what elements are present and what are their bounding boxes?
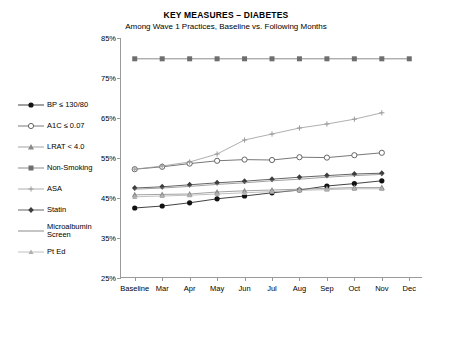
legend-item[interactable]: Pt Ed — [18, 241, 116, 262]
filled-diamond-marker-icon — [18, 204, 44, 216]
small-triangle-marker-icon — [18, 246, 44, 258]
series-4 — [132, 110, 384, 172]
series-1 — [132, 150, 384, 172]
x-axis-tick-label: Apr — [184, 284, 196, 293]
y-axis-tick-label: 75% — [101, 74, 116, 83]
data-point — [242, 157, 247, 162]
series-3 — [132, 56, 412, 61]
x-axis-tick-mark — [409, 277, 410, 281]
x-axis-tick-label: Dec — [403, 284, 416, 293]
x-axis-tick-label: May — [210, 284, 224, 293]
filled-triangle-marker-icon — [18, 141, 44, 153]
data-point — [297, 56, 302, 61]
legend-item-label: Non-Smoking — [47, 164, 92, 172]
data-point — [159, 184, 165, 190]
x-axis-tick-label: Jun — [238, 284, 250, 293]
y-axis-tick-mark — [117, 238, 121, 239]
data-point — [187, 56, 192, 61]
data-point — [379, 150, 384, 155]
series-line — [135, 173, 382, 188]
legend-item-label: ASA — [47, 185, 62, 193]
data-point — [379, 170, 385, 176]
data-point — [352, 56, 357, 61]
legend-item-label: Pt Ed — [47, 248, 65, 256]
data-point — [187, 200, 192, 205]
x-axis-tick-mark — [299, 277, 300, 281]
chart-subtitle: Among Wave 1 Practices, Baseline vs. Fol… — [0, 22, 452, 31]
line-marker-icon — [18, 225, 44, 237]
x-axis-tick-mark — [135, 277, 136, 281]
data-point — [324, 121, 329, 126]
data-point — [214, 158, 219, 163]
series-6 — [135, 174, 382, 189]
data-point — [269, 131, 274, 136]
open-circle-marker-icon — [18, 120, 44, 132]
plot-svg — [121, 38, 423, 278]
y-axis-tick-label: 25% — [101, 274, 116, 283]
data-point — [379, 110, 384, 115]
data-point — [297, 125, 302, 130]
data-point — [132, 56, 137, 61]
data-point — [215, 56, 220, 61]
y-axis-tick-mark — [117, 158, 121, 159]
diabetes-key-measures-chart: KEY MEASURES – DIABETES Among Wave 1 Pra… — [0, 0, 452, 341]
legend-item[interactable]: BP ≤ 130/80 — [18, 94, 116, 115]
filled-circle-marker-icon — [18, 99, 44, 111]
chart-title: KEY MEASURES – DIABETES — [0, 10, 452, 20]
filled-square-marker-icon — [18, 162, 44, 174]
y-axis-tick-mark — [117, 278, 121, 279]
x-axis-tick-label: Jul — [267, 284, 277, 293]
data-point — [352, 117, 357, 122]
x-axis-tick-mark — [382, 277, 383, 281]
filled-triangle-marker-icon — [18, 141, 44, 153]
y-axis-tick-mark — [117, 118, 121, 119]
data-point — [297, 155, 302, 160]
line-marker-icon — [18, 225, 44, 237]
series-line — [135, 174, 382, 189]
legend-item-label: LRAT < 4.0 — [47, 143, 84, 151]
x-axis-tick-label: Sep — [320, 284, 333, 293]
x-axis-tick-label: Oct — [349, 284, 361, 293]
y-axis-tick-label: 65% — [101, 114, 116, 123]
data-point — [324, 155, 329, 160]
legend-item-label: BP ≤ 130/80 — [47, 101, 88, 109]
legend-item-label: Microalbumin Screen — [47, 223, 93, 239]
small-triangle-marker-icon — [18, 246, 44, 258]
x-axis-tick-mark — [272, 277, 273, 281]
data-point — [214, 151, 219, 156]
x-axis-tick-mark — [217, 277, 218, 281]
data-point — [132, 205, 137, 210]
data-point — [132, 185, 138, 191]
x-axis-tick-mark — [245, 277, 246, 281]
plus-marker-icon — [18, 183, 44, 195]
y-axis-tick-label: 35% — [101, 234, 116, 243]
x-axis-tick-mark — [190, 277, 191, 281]
x-axis-tick-label: Aug — [293, 284, 306, 293]
data-point — [379, 56, 384, 61]
data-point — [270, 56, 275, 61]
filled-diamond-marker-icon — [18, 204, 44, 216]
plot-area: 25%35%45%55%65%75%85%BaselineMarAprMayJu… — [120, 38, 422, 278]
plus-marker-icon — [18, 183, 44, 195]
open-circle-marker-icon — [18, 120, 44, 132]
y-axis-tick-label: 45% — [101, 194, 116, 203]
data-point — [160, 203, 165, 208]
x-axis-tick-label: Nov — [375, 284, 388, 293]
filled-square-marker-icon — [18, 162, 44, 174]
data-point — [214, 196, 219, 201]
legend-item-label: Statin — [47, 206, 66, 214]
x-axis-tick-label: Mar — [156, 284, 169, 293]
data-point — [352, 153, 357, 158]
filled-circle-marker-icon — [18, 99, 44, 111]
data-point — [160, 56, 165, 61]
legend-item-label: A1C ≤ 0.07 — [47, 122, 84, 130]
x-axis-tick-label: Baseline — [120, 284, 149, 293]
x-axis-tick-mark — [354, 277, 355, 281]
data-point — [324, 56, 329, 61]
y-axis-tick-mark — [117, 38, 121, 39]
y-axis-tick-label: 55% — [101, 154, 116, 163]
data-point — [242, 137, 247, 142]
y-axis-tick-mark — [117, 78, 121, 79]
data-point — [269, 157, 274, 162]
series-line — [135, 153, 382, 169]
